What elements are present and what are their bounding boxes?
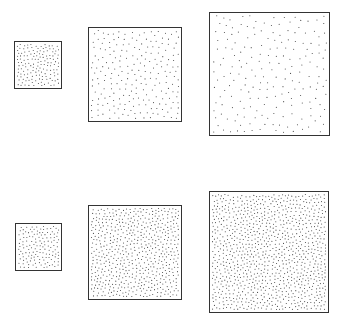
dot-field (89, 28, 181, 121)
panel-bottom-medium (88, 205, 182, 300)
panel-bottom-small (15, 223, 62, 271)
dot-field (210, 192, 328, 312)
panel-bottom-large (209, 191, 329, 313)
dot-field (15, 42, 61, 88)
panel-top-small (14, 41, 62, 89)
dot-field (16, 224, 61, 270)
dot-field (89, 206, 181, 299)
dot-field (210, 13, 329, 135)
panel-top-medium (88, 27, 182, 122)
panel-top-large (209, 12, 330, 136)
